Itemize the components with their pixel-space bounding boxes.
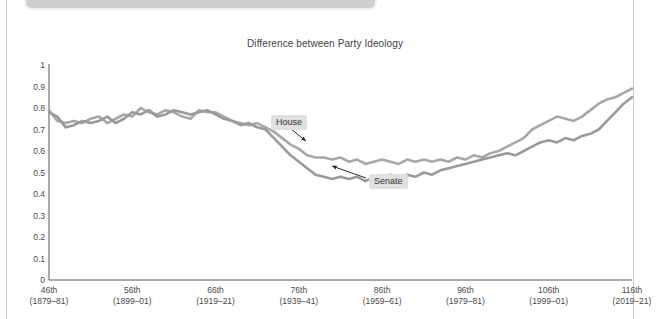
annotation-arrow-line bbox=[332, 166, 366, 178]
y-tick-label: 0.3 bbox=[5, 211, 45, 221]
x-tick-congress: 116th bbox=[622, 285, 643, 295]
y-tick-label: 0.6 bbox=[5, 146, 45, 156]
x-tick-congress: 106th bbox=[538, 285, 559, 295]
y-tick-label: 0.2 bbox=[5, 232, 45, 242]
y-tick-label: 0 bbox=[5, 275, 45, 285]
x-tick-congress: 76th bbox=[291, 285, 308, 295]
x-tick-congress: 46th bbox=[41, 285, 58, 295]
x-tick-congress: 56th bbox=[124, 285, 141, 295]
x-tick-label: 46th(1879–81) bbox=[14, 285, 84, 307]
x-tick-label: 56th(1899–01) bbox=[97, 285, 167, 307]
series-line-house bbox=[49, 89, 632, 164]
x-tick-years: (1919–21) bbox=[181, 296, 251, 307]
x-tick-congress: 66th bbox=[207, 285, 224, 295]
x-tick-years: (1999–01) bbox=[514, 296, 584, 307]
y-tick-label: 0.5 bbox=[5, 168, 45, 178]
x-tick-years: (1939–41) bbox=[264, 296, 334, 307]
y-tick-label: 0.8 bbox=[5, 103, 45, 113]
annotation-senate: Senate bbox=[369, 174, 408, 189]
annotation-arrow-head bbox=[332, 166, 337, 170]
y-tick-label: 0.4 bbox=[5, 189, 45, 199]
x-tick-years: (1959–61) bbox=[347, 296, 417, 307]
x-tick-years: (2019–21) bbox=[597, 296, 656, 307]
x-tick-congress: 86th bbox=[374, 285, 391, 295]
x-tick-label: 116th(2019–21) bbox=[597, 285, 656, 307]
y-axis-labels: 10.90.80.70.60.50.40.30.20.10 bbox=[2, 0, 45, 319]
x-tick-congress: 96th bbox=[457, 285, 474, 295]
y-tick-label: 0.1 bbox=[5, 254, 45, 264]
x-tick-label: 106th(1999–01) bbox=[514, 285, 584, 307]
x-tick-years: (1979–81) bbox=[430, 296, 500, 307]
x-tick-label: 96th(1979–81) bbox=[430, 285, 500, 307]
x-tick-label: 76th(1939–41) bbox=[264, 285, 334, 307]
annotation-house: House bbox=[271, 115, 307, 130]
y-tick-label: 0.7 bbox=[5, 125, 45, 135]
x-tick-label: 66th(1919–21) bbox=[181, 285, 251, 307]
y-tick-label: 0.9 bbox=[5, 82, 45, 92]
x-tick-years: (1879–81) bbox=[14, 296, 84, 307]
x-tick-years: (1899–01) bbox=[97, 296, 167, 307]
y-tick-label: 1 bbox=[5, 60, 45, 70]
x-tick-label: 86th(1959–61) bbox=[347, 285, 417, 307]
